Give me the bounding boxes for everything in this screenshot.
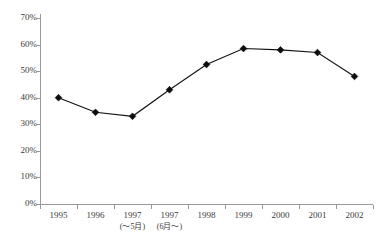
y-tick-mark <box>36 18 40 19</box>
y-tick-mark <box>36 45 40 46</box>
data-point-marker <box>314 49 321 56</box>
series-line <box>59 49 355 117</box>
line-chart: 0%10%20%30%40%50%60%70% 199519961997(～5月… <box>0 0 381 246</box>
plot-area <box>0 0 381 246</box>
series-markers <box>55 45 358 120</box>
y-tick-mark <box>36 71 40 72</box>
data-point-marker <box>240 45 247 52</box>
data-point-marker <box>92 109 99 116</box>
y-tick-mark <box>36 177 40 178</box>
y-tick-mark <box>36 151 40 152</box>
data-point-marker <box>277 46 284 53</box>
data-point-marker <box>55 94 62 101</box>
data-point-marker <box>203 61 210 68</box>
data-point-marker <box>351 73 358 80</box>
y-tick-mark <box>36 98 40 99</box>
y-tick-mark <box>36 204 40 205</box>
y-tick-mark <box>36 124 40 125</box>
